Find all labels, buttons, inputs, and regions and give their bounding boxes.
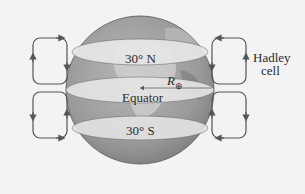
label-equator: Equator: [122, 91, 163, 104]
label-30s: 30° S: [126, 124, 155, 137]
diagram-canvas: 30° N Equator 30° S R⊕ Hadley cell: [0, 0, 305, 194]
radius-symbol: R: [167, 73, 175, 88]
cell-left-north: [33, 38, 67, 84]
cell-right-north: [212, 38, 246, 84]
radius-subscript: ⊕: [175, 81, 183, 91]
cell-right-south: [212, 92, 246, 138]
cell-left-south: [33, 92, 67, 138]
label-30n: 30° N: [125, 52, 156, 65]
label-radius: R⊕: [167, 74, 183, 93]
label-cell: cell: [261, 64, 280, 77]
